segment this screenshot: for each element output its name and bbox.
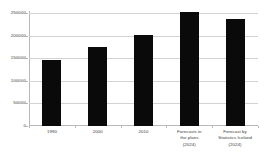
y-tick-mark: [26, 103, 28, 104]
plot-area: [29, 13, 258, 126]
x-tick-mark: [75, 126, 76, 128]
x-tick-mark: [29, 126, 30, 128]
bar-chart: 050000100000150000200000250000 199020002…: [0, 0, 265, 159]
y-tick-label: 150000: [0, 55, 26, 60]
y-tick-label: 200000: [0, 33, 26, 38]
y-tick-label: 100000: [0, 78, 26, 83]
bar[interactable]: [180, 12, 199, 126]
gridline-250000: [29, 13, 258, 14]
x-tick-mark: [258, 126, 259, 128]
y-tick-label: 0: [0, 123, 26, 128]
bar[interactable]: [226, 19, 245, 126]
bar[interactable]: [134, 35, 153, 126]
x-tick-label-line: (2024): [207, 142, 263, 148]
y-tick-mark: [26, 126, 28, 127]
x-tick-label: Forecast byStatistics Iceland(2024): [207, 129, 263, 148]
x-tick-mark: [212, 126, 213, 128]
y-tick-mark: [26, 36, 28, 37]
y-tick-label: 250000: [0, 10, 26, 15]
y-tick-mark: [26, 13, 28, 14]
x-tick-mark: [121, 126, 122, 128]
y-tick-mark: [26, 58, 28, 59]
y-tick-label: 50000: [0, 100, 26, 105]
bar[interactable]: [42, 60, 61, 126]
y-tick-mark: [26, 81, 28, 82]
bar[interactable]: [88, 47, 107, 126]
x-tick-mark: [166, 126, 167, 128]
